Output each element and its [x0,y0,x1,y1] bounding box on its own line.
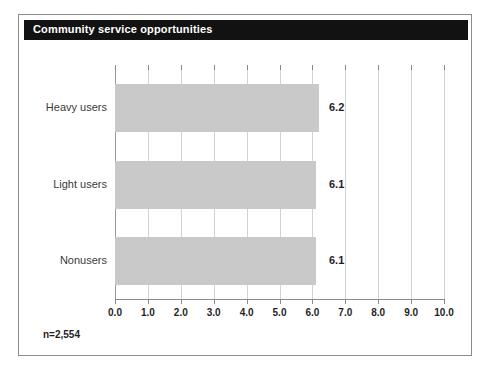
tick-mark-2.0 [181,65,182,70]
x-tick-label-9.0: 9.0 [404,307,418,318]
x-tick-label-1.0: 1.0 [141,307,155,318]
tick-mark-3.0 [214,65,215,70]
x-tick-label-5.0: 5.0 [273,307,287,318]
chart-frame: Community service opportunities Heavy us… [18,14,472,356]
tick-mark-9.0 [411,65,412,70]
x-tick-label-4.0: 4.0 [240,307,254,318]
x-tick-label-2.0: 2.0 [174,307,188,318]
category-label-heavy-users: Heavy users [21,101,107,113]
tick-mark-0.0 [115,65,116,70]
gridline-10.0 [444,70,445,299]
tick-mark-6.0 [312,65,313,70]
plot-area [115,70,444,299]
page-title: Community service opportunities [33,23,212,35]
bar-nonusers [115,237,316,285]
category-label-light-users: Light users [21,178,107,190]
bar-light-users [115,161,316,209]
x-axis-tick-labels: 0.01.02.03.04.05.06.07.08.09.010.0 [115,307,445,323]
x-tick-label-6.0: 6.0 [305,307,319,318]
x-tick-label-8.0: 8.0 [371,307,385,318]
tick-mark-1.0 [148,65,149,70]
value-label-heavy-users: 6.2 [329,101,344,113]
x-tick-label-3.0: 3.0 [207,307,221,318]
tick-mark-5.0 [280,65,281,70]
tick-mark-4.0 [247,65,248,70]
bar-heavy-users [115,84,319,132]
x-tick-label-10.0: 10.0 [434,307,453,318]
x-tick-label-0.0: 0.0 [108,307,122,318]
value-label-light-users: 6.1 [329,178,344,190]
category-label-nonusers: Nonusers [21,254,107,266]
tick-mark-10.0 [444,65,445,70]
category-axis-labels: Heavy usersLight usersNonusers [19,70,107,299]
value-label-nonusers: 6.1 [329,254,344,266]
bar-value-labels: 6.26.16.1 [323,70,383,299]
x-tick-label-7.0: 7.0 [338,307,352,318]
gridline-9.0 [411,70,412,299]
sample-size-footnote: n=2,554 [43,329,80,340]
chart-title-banner: Community service opportunities [24,20,468,40]
x-axis-line [115,299,445,300]
